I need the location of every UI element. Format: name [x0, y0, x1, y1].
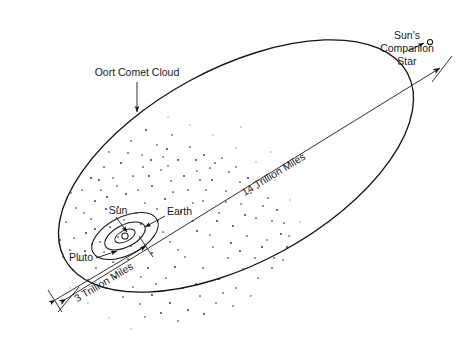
oort-comet-cloud	[14, 97, 305, 355]
annotation-earth: Earth	[145, 205, 192, 227]
diagram-canvas: 14 Trillion Miles 3 Trillion Miles Pluto…	[0, 0, 471, 362]
label-pluto: Pluto	[69, 251, 93, 263]
label-14-trillion-miles: 14 Trillion Miles	[239, 150, 307, 198]
label-sun: Sun	[109, 204, 128, 216]
annotation-companion-star: Sun's Companion Star	[380, 29, 434, 67]
label-companion-star-line1: Sun's	[394, 29, 420, 41]
label-3-trillion-miles: 3 Trillion Miles	[72, 260, 135, 305]
annotation-oort-comet-cloud: Oort Comet Cloud	[95, 66, 180, 112]
earth-orbit-ellipse	[100, 216, 149, 256]
label-oort-comet-cloud: Oort Comet Cloud	[95, 66, 180, 78]
sun-marker	[122, 233, 128, 239]
label-companion-star-line2: Companion	[380, 42, 434, 54]
label-companion-star-line3: Star	[397, 55, 417, 67]
measurement-3-trillion-miles: 3 Trillion Miles	[48, 236, 153, 312]
label-earth: Earth	[167, 205, 192, 217]
astronomy-diagram: 14 Trillion Miles 3 Trillion Miles Pluto…	[0, 0, 471, 362]
